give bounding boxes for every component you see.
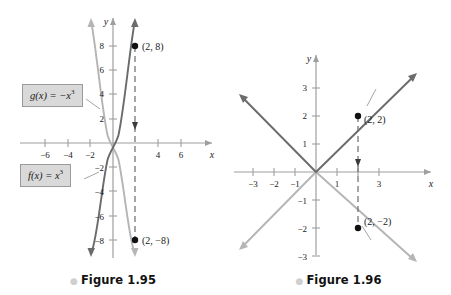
x-axis-label: x bbox=[428, 178, 434, 189]
x-tick-label: 3 bbox=[377, 179, 382, 189]
figure-1-96: −3 −2 −1 1 3 3 2 1 −1 −2 −3 x y (2, 2) (… bbox=[226, 0, 451, 295]
y-tick-label: −8 bbox=[94, 236, 104, 246]
callout-f-exponent: 3 bbox=[60, 168, 64, 176]
caption-bullet-icon: ● bbox=[295, 276, 303, 286]
y-tick-label: −2 bbox=[94, 163, 104, 173]
point-2-neg8 bbox=[132, 237, 138, 243]
y-tick-label: −3 bbox=[297, 252, 307, 262]
y-tick-label: −6 bbox=[94, 212, 104, 222]
x-tick-label: 6 bbox=[179, 150, 184, 160]
x-tick-label: −3 bbox=[248, 179, 258, 189]
x-tick-label: −4 bbox=[63, 150, 73, 160]
y-axis-label: y bbox=[103, 16, 109, 27]
x-axis bbox=[234, 169, 431, 175]
point-2-8 bbox=[132, 43, 138, 49]
x-tick-label: 4 bbox=[156, 150, 161, 160]
callout-g-text: g(x) = −x bbox=[30, 90, 71, 101]
point-2-2 bbox=[355, 113, 361, 119]
y-tick-label: −4 bbox=[94, 187, 104, 197]
x-tick-label: −2 bbox=[85, 150, 95, 160]
y-tick-label: 1 bbox=[303, 139, 308, 149]
callout-f-text: f(x) = x bbox=[28, 170, 60, 181]
point-label-2-neg8: (2, −8) bbox=[142, 235, 169, 247]
y-tick-label: 6 bbox=[100, 65, 105, 75]
line-f-abs-x bbox=[239, 73, 417, 172]
y-tick-label: 8 bbox=[100, 41, 105, 51]
x-tick-label: 1 bbox=[335, 179, 340, 189]
y-tick-label: 2 bbox=[100, 114, 105, 124]
plot-absolute-value: −3 −2 −1 1 3 3 2 1 −1 −2 −3 x y (2, 2) (… bbox=[226, 0, 451, 265]
figure-pair-page: −6 −4 −2 4 6 8 6 4 2 −2 −4 −6 −8 x y (2,… bbox=[0, 0, 451, 295]
y-tick-label: −1 bbox=[297, 196, 307, 206]
x-tick-label: −6 bbox=[40, 150, 50, 160]
figure-caption-1-96: ●Figure 1.96 bbox=[226, 273, 451, 287]
callout-g-label: g(x) = −x3 bbox=[22, 84, 83, 107]
figure-caption-1-95: ●Figure 1.95 bbox=[0, 273, 226, 287]
point-2-neg2 bbox=[355, 225, 361, 231]
y-axis-label: y bbox=[306, 53, 312, 64]
callout-f-label: f(x) = x3 bbox=[20, 164, 71, 187]
x-axis-label: x bbox=[209, 149, 215, 160]
y-axis bbox=[313, 55, 319, 255]
plot-cubic: −6 −4 −2 4 6 8 6 4 2 −2 −4 −6 −8 x y (2,… bbox=[0, 0, 226, 265]
x-tick-label: −1 bbox=[290, 179, 300, 189]
y-tick-label: 2 bbox=[303, 111, 308, 121]
point-label-2-2: (2, 2) bbox=[364, 114, 386, 126]
figure-1-95: −6 −4 −2 4 6 8 6 4 2 −2 −4 −6 −8 x y (2,… bbox=[0, 0, 226, 295]
caption-text: Figure 1.96 bbox=[306, 273, 381, 287]
callout-g-exponent: 3 bbox=[71, 88, 75, 96]
y-axis bbox=[110, 18, 116, 258]
caption-bullet-icon: ● bbox=[70, 276, 78, 286]
y-tick-label: −2 bbox=[297, 224, 307, 234]
caption-text: Figure 1.95 bbox=[81, 273, 156, 287]
y-tick-label: 3 bbox=[303, 83, 308, 93]
point-label-2-neg2: (2, −2) bbox=[364, 216, 391, 228]
point-label-2-8: (2, 8) bbox=[142, 41, 164, 53]
y-tick-label: 4 bbox=[100, 89, 105, 99]
x-tick-label: −2 bbox=[269, 179, 279, 189]
